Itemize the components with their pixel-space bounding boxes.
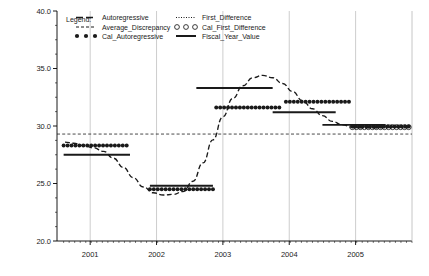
series-cal-autoregressive-point-2-10	[254, 106, 258, 110]
series-cal-autoregressive-point-1-3	[160, 187, 164, 191]
legend-marker-cal_autoregressive-0	[75, 34, 79, 38]
series-cal-autoregressive-point-1-0	[148, 187, 152, 191]
series-cal-autoregressive-point-3-0	[284, 100, 288, 104]
series-cal-autoregressive-point-2-8	[246, 106, 250, 110]
series-cal-autoregressive-point-2-0	[214, 106, 218, 110]
series-cal-autoregressive-point-2-12	[262, 106, 266, 110]
series-cal-autoregressive-point-0-6	[85, 144, 89, 148]
series-cal-autoregressive-point-1-9	[183, 187, 187, 191]
series-cal-autoregressive-point-1-12	[195, 187, 199, 191]
series-cal-autoregressive-point-3-3	[296, 100, 300, 104]
series-cal-autoregressive-point-2-11	[258, 106, 262, 110]
series-cal-autoregressive-point-0-12	[109, 144, 113, 148]
x-tick-label-2001: 2001	[82, 250, 99, 259]
series-cal-autoregressive-point-0-14	[117, 144, 121, 148]
series-cal-autoregressive-point-0-8	[93, 144, 97, 148]
series-cal-autoregressive-point-3-11	[327, 100, 331, 104]
y-tick-label-35.0: 35.0	[36, 64, 51, 73]
chart-container: 20.025.030.035.040.020012002200320042005…	[0, 0, 429, 276]
series-cal-autoregressive-point-3-13	[335, 100, 339, 104]
series-cal-autoregressive-point-3-9	[319, 100, 323, 104]
series-cal-autoregressive-point-1-6	[172, 187, 176, 191]
series-cal-autoregressive-point-1-11	[191, 187, 195, 191]
legend-label-first_difference: First_Difference	[202, 14, 251, 22]
series-cal-autoregressive-point-1-15	[207, 187, 211, 191]
legend-marker-cal_autoregressive-1	[84, 34, 88, 38]
series-cal-autoregressive-point-3-6	[308, 100, 312, 104]
series-cal-autoregressive-point-1-4	[164, 187, 168, 191]
legend-label-autoregressive: Autoregressive	[102, 14, 149, 22]
series-cal-autoregressive-point-2-4	[230, 106, 234, 110]
series-cal-autoregressive-point-0-7	[89, 144, 93, 148]
series-cal-autoregressive-point-0-0	[62, 144, 66, 148]
series-cal-autoregressive-point-1-7	[175, 187, 179, 191]
series-cal-autoregressive-point-3-16	[347, 100, 351, 104]
legend-label-fiscal_year_value: Fiscal_Year_Value	[202, 33, 260, 41]
y-tick-label-30.0: 30.0	[36, 122, 51, 131]
x-tick-label-2002: 2002	[148, 250, 165, 259]
series-cal-autoregressive-point-3-4	[300, 100, 304, 104]
x-tick-label-2004: 2004	[281, 250, 298, 259]
series-cal-autoregressive-point-0-13	[113, 144, 117, 148]
series-cal-autoregressive-point-0-3	[73, 144, 77, 148]
series-cal-autoregressive-point-1-16	[211, 187, 215, 191]
chart-plot: 20.025.030.035.040.020012002200320042005…	[0, 0, 429, 276]
series-cal-autoregressive-point-0-15	[121, 144, 125, 148]
series-cal-autoregressive-point-0-10	[101, 144, 105, 148]
series-cal-autoregressive-point-2-16	[277, 106, 281, 110]
legend-label-average_discrepancy: Average_Discrepancy	[102, 24, 171, 32]
legend-label-cal_first_difference: Cal_First_Difference	[202, 24, 266, 32]
series-cal-autoregressive-point-1-10	[187, 187, 191, 191]
series-cal-autoregressive-point-0-11	[105, 144, 109, 148]
series-cal-autoregressive-point-0-2	[70, 144, 74, 148]
legend-marker-cal_autoregressive-2	[93, 34, 97, 38]
series-cal-autoregressive-point-2-9	[250, 106, 254, 110]
series-cal-autoregressive-point-2-14	[269, 106, 273, 110]
series-cal-autoregressive-point-2-3	[226, 106, 230, 110]
series-cal-autoregressive-point-2-2	[222, 106, 226, 110]
series-cal-autoregressive-point-2-6	[238, 106, 242, 110]
series-cal-autoregressive-point-0-1	[66, 144, 70, 148]
series-cal-autoregressive-point-1-14	[203, 187, 207, 191]
series-cal-autoregressive-point-3-8	[315, 100, 319, 104]
series-cal-autoregressive-point-3-7	[312, 100, 316, 104]
y-tick-label-25.0: 25.0	[36, 179, 51, 188]
series-cal-autoregressive-point-2-13	[265, 106, 269, 110]
series-cal-autoregressive-point-3-5	[304, 100, 308, 104]
x-tick-label-2005: 2005	[347, 250, 364, 259]
series-cal-autoregressive-point-3-15	[343, 100, 347, 104]
x-tick-label-2003: 2003	[215, 250, 232, 259]
series-cal-autoregressive-point-1-5	[168, 187, 172, 191]
series-cal-autoregressive-point-1-8	[179, 187, 183, 191]
y-tick-label-40.0: 40.0	[36, 7, 51, 16]
series-cal-autoregressive-point-3-12	[331, 100, 335, 104]
series-cal-autoregressive-point-0-4	[77, 144, 81, 148]
series-cal-autoregressive-point-0-16	[125, 144, 129, 148]
series-cal-autoregressive-point-1-2	[156, 187, 160, 191]
legend-label-cal_autoregressive: Cal_Autoregressive	[102, 33, 163, 41]
series-cal-autoregressive-point-0-9	[97, 144, 101, 148]
y-tick-label-20.0: 20.0	[36, 237, 51, 246]
series-cal-autoregressive-point-0-5	[81, 144, 85, 148]
series-cal-autoregressive-point-3-10	[323, 100, 327, 104]
series-cal-autoregressive-point-2-5	[234, 106, 238, 110]
series-cal-autoregressive-point-2-7	[242, 106, 246, 110]
series-cal-autoregressive-point-3-1	[288, 100, 292, 104]
series-cal-autoregressive-point-2-1	[218, 106, 222, 110]
series-cal-autoregressive-point-1-13	[199, 187, 203, 191]
series-cal-autoregressive-point-2-15	[273, 106, 277, 110]
series-cal-autoregressive-point-3-2	[292, 100, 296, 104]
series-cal-autoregressive-point-1-1	[152, 187, 156, 191]
series-cal-autoregressive-point-3-14	[339, 100, 343, 104]
